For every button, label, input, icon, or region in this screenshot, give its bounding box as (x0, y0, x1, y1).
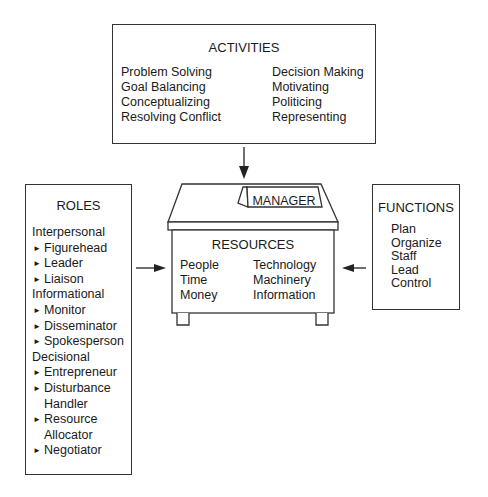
role-item: ►Leader (32, 256, 124, 272)
bullet-icon: ► (33, 443, 41, 459)
bullet-icon: ► (33, 272, 41, 288)
function-item: Staff (391, 250, 442, 264)
activity-item: Decision Making (272, 65, 364, 80)
bullet-icon: ► (33, 256, 41, 272)
bullet-icon: ► (33, 381, 41, 397)
manager-nameplate: MANAGER (248, 194, 320, 208)
activity-item: Conceptualizing (121, 95, 221, 110)
resource-item: People (180, 258, 219, 273)
function-item: Lead (391, 264, 442, 278)
role-item: ►Monitor (32, 303, 124, 319)
activities-left-list: Problem Solving Goal Balancing Conceptua… (121, 65, 221, 125)
role-item: ►Entrepreneur (32, 365, 124, 381)
bullet-icon: ► (33, 365, 41, 381)
activity-item: Resolving Conflict (121, 110, 221, 125)
function-item: Plan (391, 223, 442, 237)
role-item: ►Spokesperson (32, 334, 124, 350)
resource-item: Information (253, 288, 316, 303)
roles-list: Interpersonal ►Figurehead ►Leader ►Liais… (32, 225, 124, 459)
resource-item: Time (180, 273, 219, 288)
activities-box: ACTIVITIES Problem Solving Goal Balancin… (112, 24, 376, 144)
functions-title: FUNCTIONS (373, 200, 459, 215)
resources-title: RESOURCES (172, 237, 334, 252)
role-item: ►Resource Allocator (32, 412, 124, 443)
role-item: ►Disturbance Handler (32, 381, 124, 412)
resource-item: Money (180, 288, 219, 303)
arrow-right-icon (136, 264, 166, 272)
activity-item: Representing (272, 110, 364, 125)
functions-box: FUNCTIONS Plan Organize Staff Lead Contr… (372, 184, 460, 310)
role-item: ►Liaison (32, 272, 124, 288)
activity-item: Politicing (272, 95, 364, 110)
activity-item: Motivating (272, 80, 364, 95)
function-item: Control (391, 277, 442, 291)
roles-title: ROLES (26, 198, 131, 213)
role-item: ►Disseminator (32, 319, 124, 335)
bullet-icon: ► (33, 319, 41, 335)
roles-box: ROLES Interpersonal ►Figurehead ►Leader … (25, 184, 132, 475)
functions-list: Plan Organize Staff Lead Control (391, 223, 442, 291)
activity-item: Goal Balancing (121, 80, 221, 95)
resource-item: Technology (253, 258, 316, 273)
resources-left-list: People Time Money (180, 258, 219, 303)
resource-item: Machinery (253, 273, 316, 288)
role-item: ►Figurehead (32, 241, 124, 257)
activities-right-list: Decision Making Motivating Politicing Re… (272, 65, 364, 125)
bullet-icon: ► (33, 412, 41, 428)
bullet-icon: ► (33, 334, 41, 350)
activity-item: Problem Solving (121, 65, 221, 80)
resources-right-list: Technology Machinery Information (253, 258, 316, 303)
arrow-left-icon (342, 264, 366, 272)
role-category: Interpersonal (32, 225, 124, 241)
role-category: Informational (32, 287, 124, 303)
bullet-icon: ► (33, 303, 41, 319)
role-category: Decisional (32, 350, 124, 366)
activities-title: ACTIVITIES (113, 40, 375, 55)
role-item: ►Negotiator (32, 443, 124, 459)
function-item: Organize (391, 237, 442, 251)
bullet-icon: ► (33, 241, 41, 257)
arrow-down-icon (239, 147, 249, 179)
